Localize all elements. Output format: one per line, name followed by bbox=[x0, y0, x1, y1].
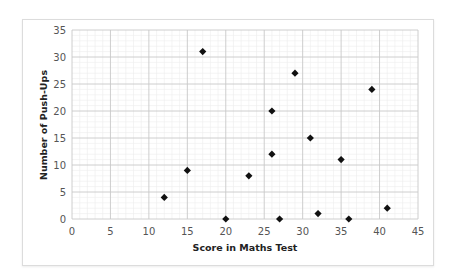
minor-gridlines bbox=[72, 30, 418, 219]
data-point-diamond bbox=[338, 156, 345, 163]
data-point-diamond bbox=[345, 215, 352, 222]
y-axis-ticks: 05101520253035 bbox=[53, 25, 66, 225]
x-tick-label: 25 bbox=[258, 226, 271, 237]
scatter-chart: 051015202530354045 05101520253035 Score … bbox=[0, 0, 455, 280]
x-axis-ticks: 051015202530354045 bbox=[69, 226, 425, 237]
y-tick-label: 25 bbox=[53, 79, 66, 90]
y-tick-label: 0 bbox=[60, 214, 66, 225]
x-tick-label: 30 bbox=[296, 226, 309, 237]
y-tick-label: 15 bbox=[53, 133, 66, 144]
data-point-diamond bbox=[268, 151, 275, 158]
y-tick-label: 10 bbox=[53, 160, 66, 171]
x-axis-title: Score in Maths Test bbox=[193, 242, 298, 253]
y-tick-label: 20 bbox=[53, 106, 66, 117]
x-tick-label: 0 bbox=[69, 226, 75, 237]
y-axis-title: Number of Push-Ups bbox=[38, 70, 49, 180]
x-tick-label: 40 bbox=[373, 226, 386, 237]
data-point-diamond bbox=[184, 167, 191, 174]
data-point-diamond bbox=[314, 210, 321, 217]
data-point-diamond bbox=[384, 205, 391, 212]
data-point-diamond bbox=[222, 215, 229, 222]
y-tick-label: 30 bbox=[53, 52, 66, 63]
data-point-diamond bbox=[307, 134, 314, 141]
x-tick-label: 5 bbox=[107, 226, 113, 237]
major-gridlines bbox=[72, 30, 418, 219]
x-tick-label: 15 bbox=[181, 226, 194, 237]
x-tick-label: 10 bbox=[143, 226, 156, 237]
y-tick-label: 35 bbox=[53, 25, 66, 36]
data-point-diamond bbox=[245, 172, 252, 179]
x-tick-label: 35 bbox=[335, 226, 348, 237]
data-point-diamond bbox=[291, 70, 298, 77]
x-tick-label: 45 bbox=[412, 226, 425, 237]
data-point-diamond bbox=[368, 86, 375, 93]
y-tick-label: 5 bbox=[60, 187, 66, 198]
data-point-diamond bbox=[199, 48, 206, 55]
x-tick-label: 20 bbox=[219, 226, 232, 237]
data-point-diamond bbox=[161, 194, 168, 201]
data-point-diamond bbox=[268, 107, 275, 114]
data-point-diamond bbox=[276, 215, 283, 222]
